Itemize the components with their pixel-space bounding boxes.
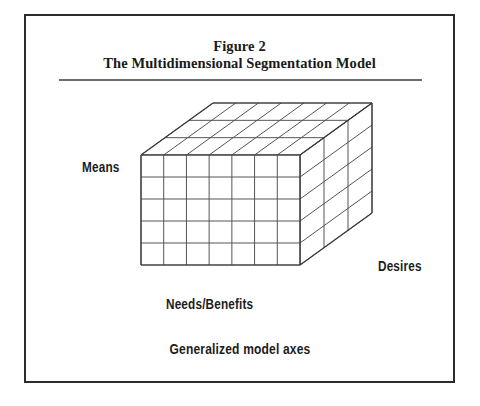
caption-line-figure-number: Figure 2 (26, 38, 453, 55)
figure-footer-label: Generalized model axes (26, 341, 453, 357)
figure-footer-label-text: Generalized model axes (169, 341, 310, 357)
axis-label-means: Means (82, 159, 119, 175)
figure-border-frame: Figure 2 The Multidimensional Segmentati… (24, 14, 455, 383)
axis-label-needs-benefits: Needs/Benefits (166, 296, 253, 312)
caption-line-title: The Multidimensional Segmentation Model (26, 55, 453, 72)
axis-label-desires: Desires (378, 258, 422, 274)
figure-caption: Figure 2 The Multidimensional Segmentati… (26, 38, 453, 72)
caption-divider-rule (59, 79, 422, 81)
figure-page: Figure 2 The Multidimensional Segmentati… (0, 0, 480, 406)
